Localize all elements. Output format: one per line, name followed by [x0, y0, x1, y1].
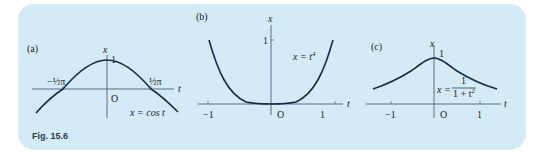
c-eq-denominator: 1 + t2: [453, 87, 475, 99]
c-origin-label: O: [440, 109, 447, 120]
b-origin-label: O: [277, 109, 284, 120]
b-panel-label: (b): [196, 11, 208, 23]
b-equation: x = t4: [292, 50, 316, 62]
chart-a: (a) x 1 t O −½π ½π x = cos t: [27, 43, 181, 118]
c-eq-lhs: x =: [436, 84, 451, 95]
a-one-label: 1: [111, 54, 116, 65]
a-origin-label: O: [111, 93, 118, 104]
c-eq-numerator: 1: [461, 75, 466, 86]
c-taxis-label: t: [504, 98, 507, 109]
a-pos-half-pi: ½π: [149, 76, 162, 87]
figure-svg: (a) x 1 t O −½π ½π x = cos t (b) x 1 t O…: [0, 0, 541, 154]
b-one-label: 1: [263, 35, 268, 46]
c-yaxis-label: x: [429, 38, 435, 49]
a-taxis-label: t: [178, 83, 181, 94]
b-yaxis-label: x: [267, 13, 273, 24]
b-neg-one: −1: [203, 109, 214, 120]
c-pos-one: 1: [477, 109, 482, 120]
figure-caption: Fig. 15.6: [32, 131, 68, 141]
a-equation: x = cos t: [129, 107, 165, 118]
chart-b: (b) x 1 t O −1 1 x = t4: [196, 11, 350, 120]
a-yaxis-label: x: [102, 44, 108, 55]
chart-c: (c) x 1 t O −1 1 x = 1 1 + t2: [366, 38, 507, 120]
c-panel-label: (c): [371, 41, 382, 53]
c-neg-one: −1: [385, 109, 396, 120]
a-neg-half-pi: −½π: [47, 76, 65, 87]
b-pos-one: 1: [320, 109, 325, 120]
c-one-label: 1: [439, 48, 444, 59]
a-panel-label: (a): [27, 43, 38, 55]
c-curve-lorentz: [373, 58, 497, 89]
b-taxis-label: t: [347, 98, 350, 109]
